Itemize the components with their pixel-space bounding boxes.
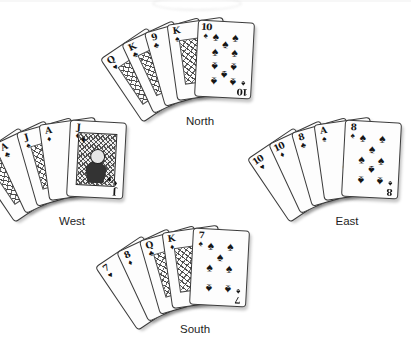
jack-court-artwork: ♦ ♦ bbox=[76, 132, 118, 187]
card-rank: J bbox=[109, 187, 120, 197]
diamond-suit-icon: ♦ bbox=[43, 135, 55, 144]
card-index: 8 ♦ bbox=[120, 249, 137, 269]
club-suit-icon: ♣ bbox=[1, 149, 14, 161]
card-index: 9 ♣ bbox=[148, 32, 163, 51]
diamond-suit-icon: ♦ bbox=[81, 134, 86, 144]
card-fan-south: 7 ♥ ♥ 8 ♦ ♦ Q ♣ K bbox=[133, 228, 257, 316]
card-fan-west: K ♥ A ♣ ♣ J ♠ A bbox=[10, 120, 134, 208]
playing-card: 8 ♠ 8 ♠ ♠♠♠♠♠♠♠♠ bbox=[341, 120, 402, 200]
heart-suit-icon: ♥ bbox=[104, 269, 118, 282]
spade-suit-icon: ♠ bbox=[318, 135, 330, 144]
card-fan-north: Q ♥ K ♣ 9 ♣ ♣ K bbox=[138, 20, 262, 108]
scan-smudge-artifact bbox=[152, 0, 242, 11]
heart-suit-icon: ♥ bbox=[256, 161, 270, 174]
pip-area: ♠♠♠♠♠♠♠♠ bbox=[351, 130, 393, 189]
hand-east: 10 ♥ ♥ 10 ♦ ♦ 8 ♣ ♣ bbox=[285, 120, 409, 227]
card-deal-diagram: Q ♥ K ♣ 9 ♣ ♣ K bbox=[0, 0, 411, 338]
diamond-suit-icon: ♦ bbox=[124, 257, 137, 269]
diamond-suit-icon: ♦ bbox=[276, 149, 289, 161]
playing-card: 10 ♠ 10 ♠ ♠♠♠♠♠♠♠♠♠♠ bbox=[194, 20, 255, 100]
card-index: 10 ♦ bbox=[272, 141, 289, 161]
playing-card: 7 ♠ 7 ♠ ♠♠♠♠♠♠♠ bbox=[189, 228, 250, 308]
hand-south: 7 ♥ ♥ 8 ♦ ♦ Q ♣ K bbox=[133, 228, 257, 335]
hand-north: Q ♥ K ♣ 9 ♣ ♣ K bbox=[138, 20, 262, 127]
pip-area: ♠♠♠♠♠♠♠♠♠♠ bbox=[204, 30, 246, 89]
card-index: A ♣ bbox=[0, 141, 14, 161]
hand-label-east: East bbox=[285, 215, 409, 227]
club-suit-icon: ♣ bbox=[297, 141, 310, 152]
card-index: A ♠ bbox=[317, 126, 330, 144]
card-index: 10 ♥ bbox=[251, 154, 270, 174]
card-fan-east: 10 ♥ ♥ 10 ♦ ♦ 8 ♣ ♣ bbox=[285, 120, 409, 208]
pip-area: ♠♠♠♠♠♠♠ bbox=[199, 238, 241, 297]
hand-label-north: North bbox=[138, 115, 262, 127]
hand-label-west: West bbox=[10, 215, 134, 227]
hand-west: K ♥ A ♣ ♣ J ♠ A bbox=[10, 120, 134, 227]
card-index: 8 ♣ bbox=[295, 132, 310, 151]
playing-card: J ♦ J ♦ ♦ ♦ bbox=[66, 120, 127, 200]
card-index: A ♦ bbox=[42, 126, 55, 144]
hand-label-south: South bbox=[133, 323, 257, 335]
card-index: 7 ♥ bbox=[99, 262, 118, 282]
club-suit-icon: ♣ bbox=[150, 41, 163, 52]
